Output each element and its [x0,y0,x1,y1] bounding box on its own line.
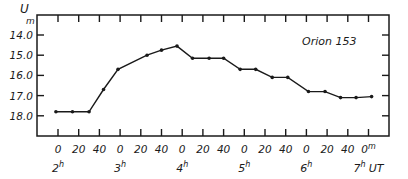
y-tick-label: 14.0 [10,29,34,41]
x-hour-label: 7hUT [354,160,385,175]
x-hour-label: 2h [52,160,64,175]
data-point [270,76,274,80]
data-point [254,68,258,72]
data-point [207,56,211,60]
y-axis-label: U [20,2,29,16]
x-tick-label: 20 [258,143,272,155]
data-point [323,90,327,94]
x-hour-label: 3h [114,160,126,175]
x-tick-label: 40 [93,143,107,155]
data-point [87,110,91,114]
y-tick-label: 15.0 [10,49,34,61]
x-hour-label: 5h [238,160,250,175]
x-tick-label: 0 [241,143,248,155]
x-tick-label: 40 [341,143,355,155]
y-axis-label-subscript: m [26,16,35,26]
data-point [145,53,149,57]
data-point [175,44,179,48]
data-point [160,48,164,52]
light-curve-chart: 14.015.016.017.018.0 0204002040020400204… [0,0,408,179]
x-tick-label: 40 [217,143,231,155]
data-point [354,96,358,100]
x-tick-label: 0 [179,143,186,155]
y-tick-label: 17.0 [10,90,34,102]
x-tick-label: 0 [117,143,124,155]
chart-annotation: Orion 153 [302,35,356,48]
x-hour-label: 6h [300,160,312,175]
x-tick-label: 20 [320,143,334,155]
series-line [56,46,372,112]
data-point [116,68,120,72]
plot-frame [37,15,389,136]
x-tick-label: 40 [279,143,293,155]
data-point [71,110,75,114]
data-point [54,110,58,114]
y-tick-label: 18.0 [10,110,34,122]
data-point [286,76,290,80]
x-tick-label: 0 [303,143,310,155]
x-tick-label: 40 [155,143,169,155]
data-point [339,96,343,100]
data-point [191,56,195,60]
data-series [54,44,373,113]
data-point [370,95,374,99]
x-tick-label: 0m [361,142,376,155]
data-point [307,90,311,94]
x-hour-label: 4h [176,160,188,175]
data-point [222,56,226,60]
x-tick-label: 20 [134,143,148,155]
x-tick-label: 20 [72,143,86,155]
x-tick-label: 20 [196,143,210,155]
data-point [102,88,106,92]
x-tick-label: 0 [55,143,62,155]
y-tick-label: 16.0 [10,69,34,81]
data-point [238,68,242,72]
